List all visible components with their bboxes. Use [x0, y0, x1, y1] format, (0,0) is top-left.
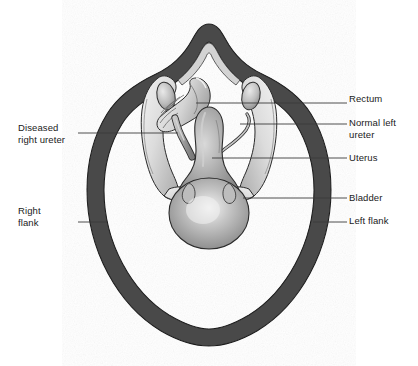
label-right-flank: Right flank [18, 205, 41, 228]
label-left-flank: Left flank [349, 215, 389, 227]
anatomy-figure: Rectum Normal left ureter Uterus Bladder… [0, 0, 418, 366]
label-rectum: Rectum [349, 93, 382, 105]
label-diseased-right-ureter: Diseased right ureter [18, 122, 65, 145]
label-bladder: Bladder [349, 192, 382, 204]
label-normal-left-ureter: Normal left ureter [349, 117, 396, 140]
anatomy-illustration [0, 0, 418, 366]
label-uterus: Uterus [349, 152, 378, 164]
bladder [169, 178, 249, 249]
